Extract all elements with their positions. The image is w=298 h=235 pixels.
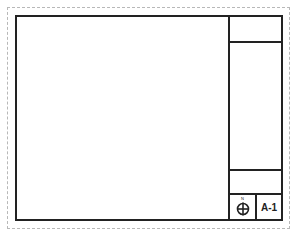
north-arrow-cell: N (230, 195, 257, 219)
title-block-header-cell (230, 17, 281, 43)
drawing-area (17, 17, 230, 219)
drawing-sheet-border: N A-1 (15, 15, 283, 221)
title-block-sheet-title-cell (230, 171, 281, 195)
north-arrow-icon: N (236, 197, 250, 217)
title-block-info-cell (230, 43, 281, 171)
north-label: N (236, 196, 250, 201)
sheet-number: A-1 (257, 195, 281, 219)
title-block-bottom-row: N A-1 (230, 195, 281, 219)
title-block: N A-1 (230, 17, 281, 219)
